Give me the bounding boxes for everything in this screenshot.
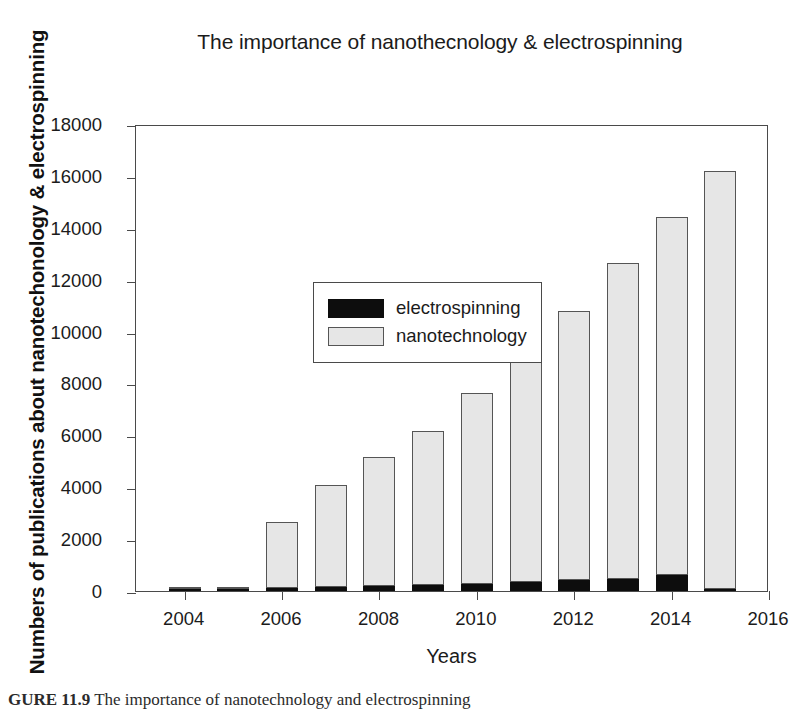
bar-segment-nanotechnology-2015 — [704, 171, 736, 588]
y-tick-label-4000: 4000 — [61, 477, 102, 499]
bar-2005 — [217, 588, 249, 591]
bar-2012 — [558, 311, 590, 591]
y-tick-label-2000: 2000 — [61, 529, 102, 551]
x-tick-label-2012: 2012 — [553, 608, 594, 630]
bar-segment-electrospinning-2009 — [412, 585, 444, 591]
bar-2011 — [510, 354, 542, 591]
y-tick-4000 — [127, 489, 136, 490]
bar-2010 — [461, 393, 493, 591]
legend-label-nanotechnology: nanotechnology — [396, 325, 527, 347]
bar-segment-electrospinning-2007 — [315, 587, 347, 591]
x-tick-label-2010: 2010 — [455, 608, 496, 630]
chart-legend: electrospinning nanotechnology — [313, 282, 542, 363]
y-tick-6000 — [127, 437, 136, 438]
bar-2004 — [169, 588, 201, 591]
bar-segment-nanotechnology-2009 — [412, 431, 444, 585]
x-tick-2014 — [672, 591, 673, 600]
y-tick-16000 — [127, 178, 136, 179]
bar-segment-electrospinning-2015 — [704, 589, 736, 591]
legend-item-electrospinning: electrospinning — [328, 296, 520, 320]
y-tick-label-18000: 18000 — [51, 114, 102, 136]
y-tick-14000 — [127, 230, 136, 231]
bar-segment-nanotechnology-2012 — [558, 311, 590, 580]
bar-2007 — [315, 485, 347, 591]
bar-2006 — [266, 522, 298, 591]
legend-label-electrospinning: electrospinning — [396, 297, 520, 319]
y-tick-12000 — [127, 282, 136, 283]
y-tick-2000 — [127, 541, 136, 542]
bar-2013 — [607, 263, 639, 591]
bar-segment-electrospinning-2004 — [169, 589, 201, 591]
y-tick-label-14000: 14000 — [51, 218, 102, 240]
x-tick-2016 — [769, 591, 770, 600]
figure-caption-number: GURE 11.9 — [8, 690, 90, 709]
y-tick-label-16000: 16000 — [51, 166, 102, 188]
figure-caption: GURE 11.9 The importance of nanotechnolo… — [8, 690, 808, 711]
bar-segment-electrospinning-2014 — [656, 575, 688, 591]
bar-segment-nanotechnology-2007 — [315, 485, 347, 587]
y-axis-tick-labels: 0200040006000800010000120001400016000180… — [0, 125, 122, 592]
bar-segment-electrospinning-2011 — [510, 582, 542, 591]
x-tick-label-2014: 2014 — [650, 608, 691, 630]
bar-segment-nanotechnology-2013 — [607, 263, 639, 579]
bar-segment-electrospinning-2010 — [461, 584, 493, 591]
bar-2015 — [704, 172, 736, 591]
x-axis-title: Years — [135, 645, 768, 668]
y-tick-8000 — [127, 385, 136, 386]
y-tick-label-8000: 8000 — [61, 373, 102, 395]
plot-area: electrospinning nanotechnology — [135, 125, 768, 592]
y-tick-0 — [127, 593, 136, 594]
bar-segment-electrospinning-2013 — [607, 579, 639, 591]
chart-title: The importance of nanothecnology & elect… — [120, 30, 760, 54]
bar-segment-electrospinning-2012 — [558, 580, 590, 591]
bar-segment-nanotechnology-2010 — [461, 393, 493, 584]
bar-segment-nanotechnology-2006 — [266, 522, 298, 588]
x-tick-2004 — [185, 591, 186, 600]
bar-segment-electrospinning-2006 — [266, 588, 298, 591]
x-tick-2010 — [477, 591, 478, 600]
x-tick-label-2016: 2016 — [747, 608, 788, 630]
y-tick-label-0: 0 — [92, 581, 102, 603]
y-tick-10000 — [127, 334, 136, 335]
x-tick-2008 — [379, 591, 380, 600]
figure-container: The importance of nanothecnology & elect… — [0, 0, 812, 711]
y-tick-label-10000: 10000 — [51, 322, 102, 344]
legend-swatch-nanotechnology — [328, 327, 384, 346]
bar-2008 — [363, 457, 395, 591]
bar-segment-electrospinning-2005 — [217, 589, 249, 591]
bar-segment-electrospinning-2008 — [363, 586, 395, 591]
x-axis-tick-labels: 2004200620082010201220142016 — [135, 600, 768, 634]
y-tick-label-12000: 12000 — [51, 270, 102, 292]
bar-segment-nanotechnology-2014 — [656, 217, 688, 575]
legend-item-nanotechnology: nanotechnology — [328, 324, 527, 348]
y-tick-label-6000: 6000 — [61, 425, 102, 447]
legend-swatch-electrospinning — [328, 299, 384, 318]
x-tick-label-2004: 2004 — [163, 608, 204, 630]
figure-caption-text: The importance of nanotechnology and ele… — [94, 690, 470, 709]
bar-segment-nanotechnology-2011 — [510, 354, 542, 582]
x-tick-label-2006: 2006 — [260, 608, 301, 630]
x-tick-2006 — [282, 591, 283, 600]
x-tick-label-2008: 2008 — [358, 608, 399, 630]
x-tick-2012 — [574, 591, 575, 600]
bar-2014 — [656, 217, 688, 591]
bar-2009 — [412, 431, 444, 591]
y-tick-18000 — [127, 126, 136, 127]
bar-segment-nanotechnology-2008 — [363, 457, 395, 586]
